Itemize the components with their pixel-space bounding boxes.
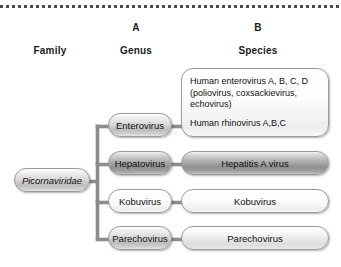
species-line: (poliovirus, coxsackievirus,: [190, 88, 328, 100]
species-node-parechovirus[interactable]: Parechovirus: [181, 226, 329, 250]
connector-trunk: [96, 125, 99, 239]
species-node-label: Hepatitis A virus: [221, 158, 289, 169]
genus-node-label: Hepatovirus: [115, 158, 166, 169]
species-line-gap: [190, 111, 328, 118]
genus-node-hepatovirus[interactable]: Hepatovirus: [108, 151, 172, 175]
column-letter-a: A: [96, 22, 176, 33]
genus-node-label: Parechovirus: [112, 233, 167, 244]
species-line: echovirus): [190, 99, 328, 111]
family-node-label: Picornaviridae: [22, 175, 82, 186]
column-header-family: Family: [10, 45, 90, 56]
species-node-enterovirus[interactable]: Human enterovirus A, B, C, D (poliovirus…: [181, 68, 329, 137]
species-node-kobuvirus[interactable]: Kobuvirus: [181, 189, 329, 213]
genus-node-kobuvirus[interactable]: Kobuvirus: [108, 189, 172, 213]
genus-node-label: Kobuvirus: [119, 196, 161, 207]
genus-node-label: Enterovirus: [116, 120, 164, 131]
species-node-hepatitis-a-virus[interactable]: Hepatitis A virus: [181, 151, 329, 175]
column-header-species: Species: [188, 45, 328, 56]
genus-node-enterovirus[interactable]: Enterovirus: [108, 113, 172, 137]
species-line: Human enterovirus A, B, C, D: [190, 76, 328, 88]
top-dotted-rule: [0, 5, 341, 8]
column-header-genus: Genus: [96, 45, 176, 56]
column-letter-b: B: [188, 22, 328, 33]
species-line: Human rhinovirus A,B,C: [190, 118, 328, 130]
family-node-picornaviridae[interactable]: Picornaviridae: [14, 168, 90, 192]
genus-node-parechovirus[interactable]: Parechovirus: [108, 226, 172, 250]
species-node-label: Kobuvirus: [234, 196, 276, 207]
species-node-label: Parechovirus: [227, 233, 282, 244]
diagram-canvas: A B Family Genus Species Picornaviridae …: [0, 0, 341, 267]
